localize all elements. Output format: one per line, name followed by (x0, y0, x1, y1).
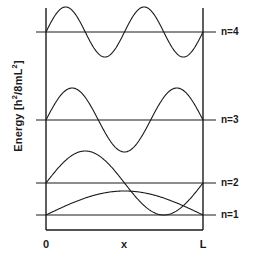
x-tick-L: L (193, 238, 213, 250)
plot-canvas (0, 0, 255, 264)
level-label-n4: n=4 (221, 26, 239, 37)
level-label-n2: n=2 (221, 177, 239, 188)
wavefunction-n1 (46, 191, 203, 215)
level-label-n1: n=1 (221, 209, 239, 220)
wavefunction-curves (46, 7, 203, 215)
particle-in-a-box-figure: Energy [h2/8mL2] n=4 n=3 n=2 n=1 0 x L (0, 0, 255, 264)
x-tick-0: 0 (36, 238, 56, 250)
x-tick-x: x (114, 238, 134, 250)
level-label-n3: n=3 (221, 114, 239, 125)
box-walls (46, 8, 203, 230)
energy-level-lines (36, 32, 216, 215)
